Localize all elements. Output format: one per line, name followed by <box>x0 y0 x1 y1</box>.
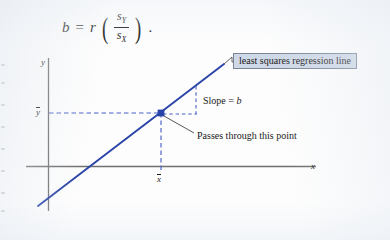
mean-point-marker <box>158 110 165 117</box>
figure-page: b = r ( sY sX ) . <box>0 0 390 240</box>
slope-annotation-text: Slope = <box>203 95 236 106</box>
callout-leader-line <box>224 57 233 64</box>
regression-line-chart <box>0 0 390 240</box>
slope-annotation-value: b <box>236 95 241 106</box>
y-axis-label: y <box>41 57 45 67</box>
y-mean-tick-label: y <box>36 107 40 117</box>
passes-leader-line <box>164 116 194 133</box>
slope-annotation: Slope = b <box>203 95 241 106</box>
x-mean-tick-label: x <box>157 174 161 184</box>
y-mean-symbol: y <box>36 107 40 117</box>
x-axis-label: x <box>311 161 315 171</box>
regression-line-callout: least squares regression line <box>233 53 357 69</box>
x-mean-symbol: x <box>157 174 161 184</box>
passes-through-annotation: Passes through this point <box>197 130 297 141</box>
